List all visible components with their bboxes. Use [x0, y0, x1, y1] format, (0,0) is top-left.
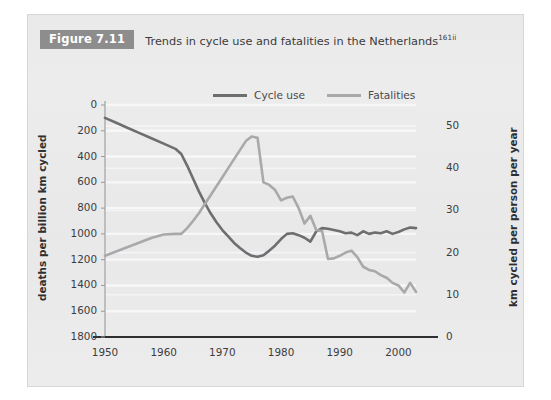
- plot-area: deaths per billion km cycled km cycled p…: [28, 15, 525, 388]
- right-axis-tick-label: 10: [446, 288, 476, 300]
- x-axis-tick-label: 1970: [199, 346, 245, 358]
- x-axis-tick-label: 1990: [317, 346, 363, 358]
- left-axis-tick-label: 1800: [57, 330, 97, 342]
- right-axis-tick-label: 50: [446, 119, 476, 131]
- chart-gridlines: [105, 105, 416, 311]
- x-axis-tick-label: 1980: [258, 346, 304, 358]
- left-axis-tick-label: 0: [57, 98, 97, 110]
- right-axis-tick-label: 30: [446, 203, 476, 215]
- left-axis-title: deaths per billion km cycled: [36, 141, 48, 301]
- figure-page: Figure 7.11 Trends in cycle use and fata…: [0, 0, 551, 400]
- left-axis-tick-label: 800: [57, 201, 97, 213]
- left-axis-tick-label: 600: [57, 175, 97, 187]
- x-axis-tick-label: 1950: [82, 346, 128, 358]
- series-line-fatalities: [105, 137, 416, 293]
- x-axis-tick-label: 2000: [375, 346, 421, 358]
- chart-series-layer: [105, 118, 416, 293]
- right-axis-tick-label: 0: [446, 330, 476, 342]
- left-axis-tick-label: 400: [57, 150, 97, 162]
- left-axis-tick-label: 1000: [57, 227, 97, 239]
- left-axis-tick-label: 1400: [57, 278, 97, 290]
- right-axis-tick-label: 40: [446, 161, 476, 173]
- left-axis-tick-label: 1600: [57, 304, 97, 316]
- right-axis-tick-label: 20: [446, 246, 476, 258]
- figure-panel: Figure 7.11 Trends in cycle use and fata…: [27, 14, 524, 387]
- left-axis-tick-label: 1200: [57, 253, 97, 265]
- left-axis-tick-label: 200: [57, 124, 97, 136]
- right-axis-title: km cycled per person per year: [507, 131, 519, 307]
- x-axis-tick-label: 1960: [141, 346, 187, 358]
- series-line-cycle-use: [105, 118, 416, 257]
